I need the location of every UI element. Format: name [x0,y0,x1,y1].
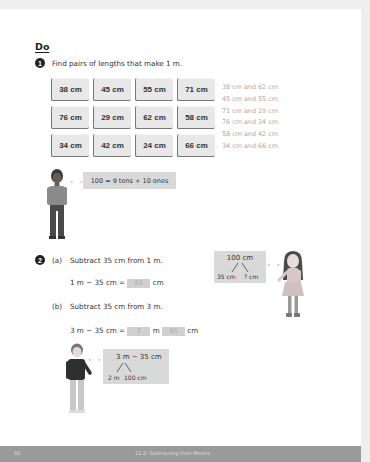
length-card: 42 cm [93,134,131,157]
right-margin [361,0,370,462]
question-2b-equation: 3 m − 35 cm = 2 m 65 cm [70,326,198,336]
girl-figure-icon [276,250,310,320]
bond-left: 2 m [108,374,120,381]
boy-number-bond-bubble: 3 m − 35 cm 2 m 100 cm [103,349,169,384]
length-card: 76 cm [51,106,89,129]
answer-pair: 58 cm and 42 cm [222,129,278,141]
length-card: 58 cm [177,106,215,129]
length-card: 66 cm [177,134,215,157]
unit-label: cm [153,278,164,287]
question-1-prompt: Find pairs of lengths that make 1 m. [52,59,182,68]
top-margin [0,0,370,9]
question-2a-label: (a) [52,256,62,265]
answer-box-cm[interactable]: 65 [127,279,150,288]
equation-left: 3 m − 35 cm = [70,326,125,335]
answer-box-m[interactable]: 2 [127,327,150,336]
answer-list: 38 cm and 62 cm 45 cm and 55 cm 71 cm an… [222,82,278,153]
bond-right: ? cm [244,273,258,280]
equation-left: 1 m − 35 cm = [70,278,125,287]
page-footer: 92 11.2: Subtracting from Meters [0,446,361,462]
answer-pair: 34 cm and 66 cm [222,141,278,153]
lesson-title: 11.2: Subtracting from Meters [135,450,210,456]
question-2-badge: 2 [35,255,45,265]
length-card: 55 cm [135,78,173,101]
answer-pair: 76 cm and 24 cm [222,117,278,129]
length-card: 29 cm [93,106,131,129]
girl-number-bond-bubble: 100 cm 35 cm ? cm [214,251,266,283]
answer-box-cm[interactable]: 65 [162,327,185,336]
unit-label: cm [187,326,198,335]
bond-right: 100 cm [124,374,147,381]
bond-left: 35 cm [217,273,236,280]
length-card: 34 cm [51,134,89,157]
boy-figure-icon [44,168,70,240]
answer-pair: 38 cm and 62 cm [222,82,278,94]
section-title: Do [35,41,49,52]
answer-pair: 71 cm and 29 cm [222,106,278,118]
length-card: 24 cm [135,134,173,157]
length-card: 45 cm [93,78,131,101]
hint-bubble: 100 = 9 tens + 10 ones [83,172,176,189]
question-2a-equation: 1 m − 35 cm = 65 cm [70,278,164,288]
question-2a-prompt: Subtract 35 cm from 1 m. [70,256,163,265]
boy-figure-2-icon [63,342,93,414]
length-card: 62 cm [135,106,173,129]
question-2b-prompt: Subtract 35 cm from 3 m. [70,302,163,311]
length-card: 38 cm [51,78,89,101]
thought-dots: • • [88,356,103,363]
question-2b-label: (b) [52,302,62,311]
unit-label: m [153,326,160,335]
answer-pair: 45 cm and 55 cm [222,94,278,106]
page-number: 92 [14,450,20,456]
length-cards: 38 cm 45 cm 55 cm 71 cm 76 cm 29 cm 62 c… [51,78,215,157]
length-card: 71 cm [177,78,215,101]
question-1-badge: 1 [35,58,45,68]
